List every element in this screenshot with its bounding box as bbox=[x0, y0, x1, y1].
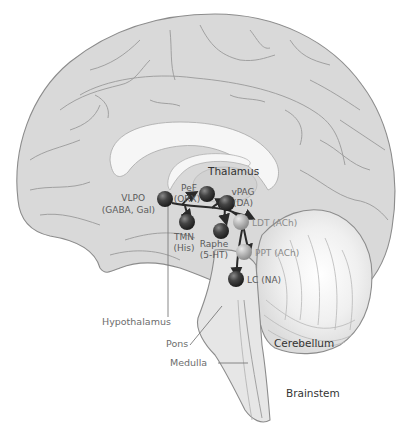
label-tmn-transmitter: (His) bbox=[174, 243, 195, 253]
label-vpag-name: vPAG bbox=[231, 187, 254, 197]
label-pons: Pons bbox=[166, 338, 188, 349]
label-ldt: LDT (ACh) bbox=[252, 218, 297, 228]
label-vlpo-name: VLPO bbox=[121, 193, 145, 203]
nucleus-ldt bbox=[233, 214, 249, 230]
nucleus-lc bbox=[228, 271, 244, 287]
label-lc: LC (NA) bbox=[247, 275, 281, 285]
label-thalamus: Thalamus bbox=[207, 165, 259, 177]
nucleus-ppt bbox=[236, 244, 252, 260]
label-hypothalamus: Hypothalamus bbox=[102, 316, 171, 327]
label-tmn-name: TMN bbox=[173, 232, 194, 242]
label-pef-transmitter: (ORX) bbox=[174, 194, 201, 204]
label-vlpo-transmitter: (GABA, Gal) bbox=[102, 205, 155, 215]
label-brainstem: Brainstem bbox=[286, 387, 340, 399]
nucleus-pef bbox=[199, 186, 215, 202]
brain-diagram: VLPO (GABA, Gal) PeF (ORX) vPAG (DA) TMN… bbox=[0, 0, 404, 432]
nucleus-raphe bbox=[213, 223, 229, 239]
label-medulla: Medulla bbox=[170, 357, 207, 368]
label-raphe-name: Raphe bbox=[200, 239, 229, 249]
label-vpag-transmitter: (DA) bbox=[233, 198, 253, 208]
label-cerebellum: Cerebellum bbox=[274, 337, 334, 349]
label-pef-name: PeF bbox=[181, 183, 197, 193]
label-ppt: PPT (ACh) bbox=[255, 248, 299, 258]
label-raphe-transmitter: (5-HT) bbox=[200, 250, 228, 260]
nucleus-vlpo bbox=[157, 191, 173, 207]
nucleus-tmn bbox=[179, 214, 195, 230]
